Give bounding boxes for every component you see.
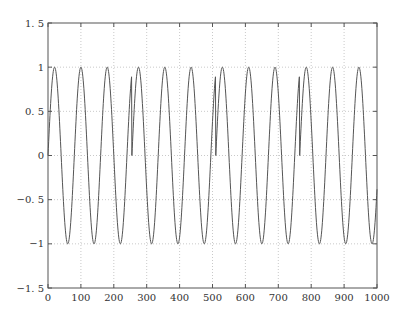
y-tick-label: 0 — [38, 150, 44, 161]
x-tick-label: 600 — [236, 292, 255, 303]
y-tick-label: −0. 5 — [17, 194, 44, 205]
x-tick-label: 900 — [335, 292, 354, 303]
y-tick-label: −1 — [29, 238, 44, 249]
chart: 01002003004005006007008009001000−1. 5−1−… — [0, 0, 407, 323]
x-tick-label: 1000 — [364, 292, 389, 303]
x-tick-label: 200 — [104, 292, 123, 303]
x-tick-label: 800 — [302, 292, 321, 303]
x-tick-label: 400 — [170, 292, 189, 303]
line-chart: 01002003004005006007008009001000−1. 5−1−… — [0, 0, 407, 323]
y-tick-label: 1. 5 — [25, 18, 44, 29]
y-tick-label: 0. 5 — [25, 106, 44, 117]
y-tick-label: 1 — [38, 62, 44, 73]
x-tick-label: 0 — [45, 292, 51, 303]
x-tick-label: 500 — [203, 292, 222, 303]
y-tick-label: −1. 5 — [17, 283, 44, 294]
x-tick-label: 100 — [71, 292, 90, 303]
x-tick-label: 300 — [137, 292, 156, 303]
x-tick-label: 700 — [269, 292, 288, 303]
